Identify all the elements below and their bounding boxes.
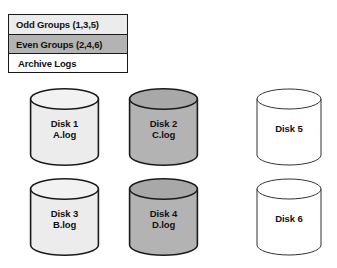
- cylinder-icon: [29, 178, 100, 256]
- cylinder-icon: [128, 178, 199, 256]
- disk-1-cylinder: Disk 1 A.log: [29, 88, 100, 166]
- disk-6-cylinder: Disk 6: [256, 178, 322, 256]
- legend-row-odd-groups: Odd Groups (1,3,5): [9, 15, 127, 34]
- disk-group-legend: Odd Groups (1,3,5) Even Groups (2,4,6) A…: [8, 14, 128, 73]
- legend-row-archive-logs: Archive Logs: [9, 53, 127, 72]
- disk-4-cylinder: Disk 4 D.log: [128, 178, 199, 256]
- disk-5-cylinder: Disk 5: [256, 88, 322, 166]
- disk-3-cylinder: Disk 3 B.log: [29, 178, 100, 256]
- cylinder-icon: [256, 178, 322, 256]
- legend-label-archive-logs: Archive Logs: [18, 58, 76, 69]
- legend-label-odd-groups: Odd Groups (1,3,5): [16, 19, 99, 30]
- diagram-canvas: Odd Groups (1,3,5) Even Groups (2,4,6) A…: [0, 0, 337, 268]
- legend-row-even-groups: Even Groups (2,4,6): [9, 34, 127, 53]
- cylinder-icon: [128, 88, 199, 166]
- cylinder-icon: [29, 88, 100, 166]
- legend-label-even-groups: Even Groups (2,4,6): [16, 39, 102, 50]
- cylinder-icon: [256, 88, 322, 166]
- disk-2-cylinder: Disk 2 C.log: [128, 88, 199, 166]
